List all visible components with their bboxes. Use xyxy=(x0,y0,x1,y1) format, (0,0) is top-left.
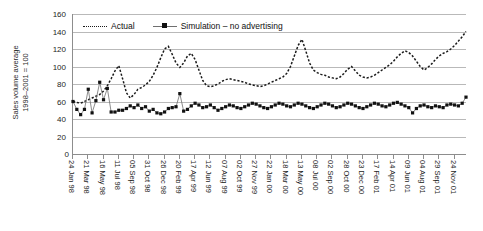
series-marker-simulation xyxy=(194,102,197,105)
series-marker-simulation xyxy=(255,103,258,106)
x-axis-tick-label: 24 Nov 01 xyxy=(449,160,457,194)
series-marker-simulation xyxy=(220,107,223,110)
series-marker-simulation xyxy=(308,106,311,109)
series-marker-simulation xyxy=(94,99,97,102)
series-marker-simulation xyxy=(125,107,128,110)
x-axis-tick-label: 02 Sep 00 xyxy=(326,160,334,194)
x-axis-tick-mark xyxy=(255,155,256,159)
legend-entry-actual: Actual xyxy=(83,21,135,31)
x-axis-tick-mark xyxy=(194,155,195,159)
series-marker-simulation xyxy=(342,103,345,106)
x-axis-tick-label: 17 Feb 01 xyxy=(372,160,380,194)
series-marker-simulation xyxy=(411,111,414,114)
x-axis-tick-label: 27 Nov 99 xyxy=(250,160,258,194)
series-marker-simulation xyxy=(442,106,445,109)
legend-swatch-square-marker-icon xyxy=(153,22,177,31)
x-axis-tick-label: 31 Oct 98 xyxy=(143,160,151,193)
series-marker-simulation xyxy=(140,107,143,110)
y-axis-tick-labels: 20406080100120140160 xyxy=(38,14,69,154)
x-axis-tick-label: 29 Sep 01 xyxy=(433,160,441,194)
x-axis-tick-label: 21 Mar 98 xyxy=(82,160,90,194)
series-marker-simulation xyxy=(449,103,452,106)
x-axis-tick-mark xyxy=(408,155,409,159)
series-marker-simulation xyxy=(445,103,448,106)
x-axis-tick-mark xyxy=(454,155,455,159)
y-axis-title-line2: 1998–2001 = 100 xyxy=(20,45,30,119)
series-marker-simulation xyxy=(438,105,441,108)
series-marker-simulation xyxy=(216,109,219,112)
x-axis-tick-label: 24 Jan 98 xyxy=(67,160,75,193)
series-marker-simulation xyxy=(388,103,391,106)
series-marker-simulation xyxy=(361,107,364,110)
y-axis-tick-label: 60 xyxy=(57,97,66,106)
y-axis-tick-label: 120 xyxy=(53,45,66,54)
legend-label-simulation: Simulation – no advertising xyxy=(181,21,283,31)
series-marker-simulation xyxy=(235,106,238,109)
x-axis-tick-mark xyxy=(301,155,302,159)
x-axis-tick-mark xyxy=(286,155,287,159)
series-marker-simulation xyxy=(346,102,349,105)
series-line-simulation xyxy=(73,82,466,114)
sales-volume-chart: Sales volume average 1998–2001 = 100 204… xyxy=(0,0,483,231)
series-marker-simulation xyxy=(400,103,403,106)
series-marker-simulation xyxy=(373,102,376,105)
x-axis-tick-mark xyxy=(209,155,210,159)
x-axis-tick-mark xyxy=(377,155,378,159)
series-marker-simulation xyxy=(186,108,189,111)
x-axis-tick-mark xyxy=(316,155,317,159)
series-marker-simulation xyxy=(79,113,82,116)
series-marker-simulation xyxy=(228,103,231,106)
series-marker-simulation xyxy=(148,110,151,113)
x-axis-tick-mark xyxy=(393,155,394,159)
y-axis-zero-label: 0 xyxy=(38,150,69,159)
legend-swatch-dotted-line-icon xyxy=(83,22,107,31)
series-marker-simulation xyxy=(98,81,101,84)
x-axis-tick-label: 07 Aug 99 xyxy=(220,160,228,194)
series-marker-simulation xyxy=(281,103,284,106)
y-axis-title: Sales volume average 1998–2001 = 100 xyxy=(0,0,40,165)
series-marker-simulation xyxy=(132,106,135,109)
series-marker-simulation xyxy=(258,104,261,107)
x-axis-tick-label: 08 Jul 00 xyxy=(311,160,319,190)
series-marker-simulation xyxy=(365,105,368,108)
series-marker-simulation xyxy=(155,111,158,114)
series-marker-simulation xyxy=(358,106,361,109)
x-axis-tick-label: 09 Jun 01 xyxy=(403,160,411,193)
series-marker-simulation xyxy=(243,105,246,108)
series-marker-simulation xyxy=(121,109,124,112)
series-marker-simulation xyxy=(457,104,460,107)
series-marker-simulation xyxy=(205,105,208,108)
series-marker-simulation xyxy=(380,104,383,107)
series-marker-simulation xyxy=(102,98,105,101)
series-marker-simulation xyxy=(415,107,418,110)
series-marker-simulation xyxy=(434,104,437,107)
series-marker-simulation xyxy=(266,107,269,110)
series-marker-simulation xyxy=(136,103,139,106)
chart-legend: Actual Simulation – no advertising xyxy=(80,20,286,32)
series-marker-simulation xyxy=(117,109,120,112)
y-axis-tick-label: 80 xyxy=(57,80,66,89)
series-marker-simulation xyxy=(87,88,90,91)
series-marker-simulation xyxy=(377,103,380,106)
series-marker-simulation xyxy=(270,105,273,108)
series-marker-simulation xyxy=(167,107,170,110)
x-axis-tick-mark xyxy=(133,155,134,159)
x-axis-tick-label: 20 Feb 99 xyxy=(174,160,182,194)
series-marker-simulation xyxy=(190,104,193,107)
x-axis-tick-mark xyxy=(438,155,439,159)
series-marker-simulation xyxy=(338,105,341,108)
series-marker-simulation xyxy=(163,110,166,113)
series-marker-simulation xyxy=(461,102,464,105)
series-marker-simulation xyxy=(316,105,319,108)
x-axis-tick-label: 14 Apr 01 xyxy=(388,160,396,192)
series-marker-simulation xyxy=(144,105,147,108)
series-marker-simulation xyxy=(152,108,155,111)
series-marker-simulation xyxy=(323,102,326,105)
series-marker-simulation xyxy=(403,104,406,107)
series-marker-simulation xyxy=(419,104,422,107)
series-marker-simulation xyxy=(335,106,338,109)
x-axis-tick-mark xyxy=(270,155,271,159)
series-marker-simulation xyxy=(251,102,254,105)
x-axis-tick-mark xyxy=(423,155,424,159)
series-marker-simulation xyxy=(319,103,322,106)
